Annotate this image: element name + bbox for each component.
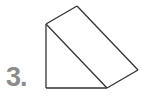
edge-diagonal	[46, 24, 107, 88]
edge-right-short	[107, 70, 138, 88]
triangular-prism-figure	[0, 0, 158, 99]
edge-top-right	[77, 6, 138, 70]
edge-top-left	[46, 6, 77, 24]
